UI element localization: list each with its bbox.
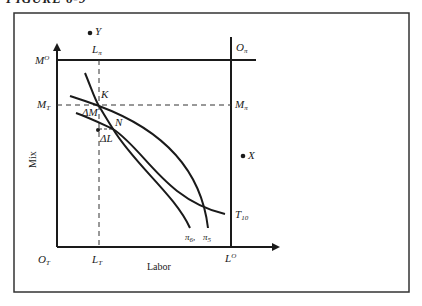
y-axis-title: Mix (27, 151, 38, 168)
label-N: N (114, 116, 123, 128)
label-M-T: MT (36, 98, 51, 112)
label-O-T: OT (38, 253, 51, 267)
figure-frame (14, 13, 409, 292)
x-axis-title: Labor (147, 261, 172, 272)
label-M-pi: Mπ (234, 98, 248, 112)
label-K: K (100, 88, 109, 100)
point-X (241, 154, 246, 159)
label-L-pi: Lπ (91, 43, 102, 57)
label-M-O: MO (34, 54, 49, 66)
label-L-O: LO (224, 252, 236, 264)
label-L-T: LT (91, 253, 103, 267)
label-T10: T10 (235, 208, 249, 222)
label-pi5: π5 (203, 232, 212, 244)
label-delta-L: ΔL (99, 132, 113, 144)
label-pi6: π6, (185, 232, 195, 244)
edgeworth-box-diagram: Y X Lπ Oπ MO MT Mπ K N ΔM ΔL T10 π6, π5 … (0, 0, 422, 306)
label-O-pi: Oπ (236, 41, 248, 55)
point-Y (88, 31, 93, 36)
label-X: X (247, 149, 256, 161)
label-Y: Y (95, 25, 103, 37)
label-delta-M: ΔM (81, 106, 98, 118)
